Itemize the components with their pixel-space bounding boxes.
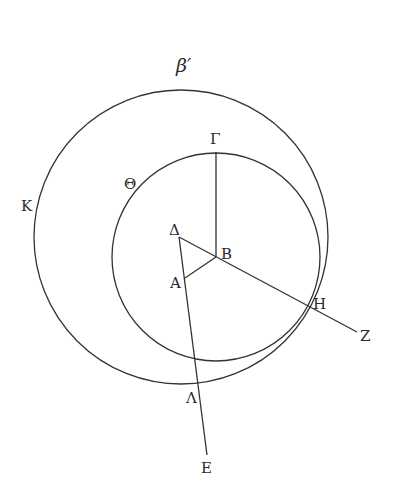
label-eta: Η: [313, 295, 326, 313]
label-alpha: Α: [169, 274, 181, 292]
label-gamma: Γ: [210, 130, 220, 148]
label-zeta: Ζ: [360, 327, 370, 345]
label-beta: Β: [221, 245, 232, 263]
segment-delta-epsilon: [179, 237, 207, 455]
label-epsilon: Ε: [201, 459, 212, 477]
figure-title: β′: [175, 54, 192, 76]
segment-alpha-beta: [185, 257, 216, 278]
label-theta: Θ: [124, 175, 136, 193]
label-lambda: Λ: [185, 389, 197, 407]
label-delta: Δ: [169, 221, 180, 239]
geometry-figure: β′ Γ Θ Κ Δ Β Α Η Ζ Λ Ε: [0, 0, 393, 479]
outer-circle-kappa: [34, 90, 328, 384]
segment-delta-zeta: [179, 237, 357, 332]
label-kappa: Κ: [21, 197, 33, 215]
